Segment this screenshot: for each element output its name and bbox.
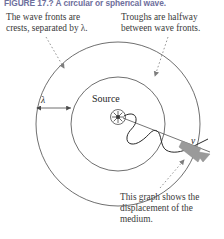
velocity-label: v — [191, 136, 195, 146]
wave-front-inner — [71, 77, 165, 171]
leader-line-graph — [160, 160, 184, 188]
leader-line-wave-fronts — [46, 37, 64, 68]
wavelength-label: λ — [41, 95, 45, 105]
leader-line-troughs — [155, 37, 168, 76]
source-label: Source — [92, 93, 120, 104]
source-starburst-icon — [111, 110, 126, 125]
wave-front-outer — [36, 42, 200, 206]
figure-container: FIGURE 17.? A circular or spherical wave… — [0, 0, 224, 239]
wave-diagram-svg — [0, 0, 224, 239]
